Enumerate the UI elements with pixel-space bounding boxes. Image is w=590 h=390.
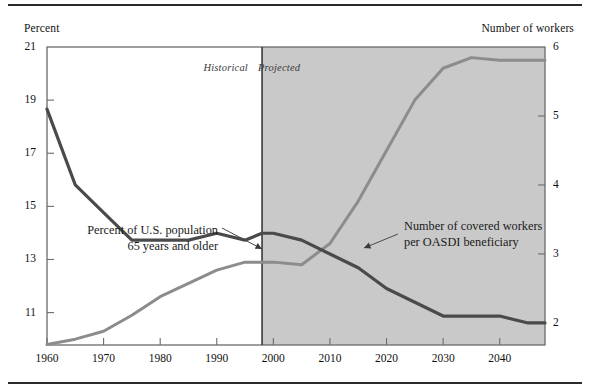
x-tick-1990: 1990 <box>195 353 239 365</box>
projected-band <box>262 47 545 345</box>
x-tick-1970: 1970 <box>82 353 126 365</box>
right-tick-3: 3 <box>553 248 575 260</box>
x-tick-2000: 2000 <box>251 353 295 365</box>
workers-annotation-line1: Number of covered workers <box>404 219 542 233</box>
x-tick-2020: 2020 <box>365 353 409 365</box>
workers-series-annotation: Number of covered workers per OASDI bene… <box>404 218 584 250</box>
right-tick-4: 4 <box>553 179 575 191</box>
left-tick-19: 19 <box>14 94 36 106</box>
historical-band-label: Historical <box>203 62 248 73</box>
plot-canvas <box>0 0 590 390</box>
left-tick-15: 15 <box>14 200 36 212</box>
left-tick-11: 11 <box>14 307 36 319</box>
population-series-annotation: Percent of U.S. population 65 years and … <box>46 222 218 254</box>
left-tick-13: 13 <box>14 253 36 265</box>
left-tick-17: 17 <box>14 147 36 159</box>
right-tick-2: 2 <box>553 317 575 329</box>
population-annotation-line2: 65 years and older <box>128 239 219 253</box>
x-tick-2040: 2040 <box>478 353 522 365</box>
x-tick-1980: 1980 <box>138 353 182 365</box>
population-leader <box>222 228 262 249</box>
population-annotation-line1: Percent of U.S. population <box>87 223 218 237</box>
x-tick-2030: 2030 <box>421 353 465 365</box>
projected-region <box>262 47 545 345</box>
projected-band-label: Projected <box>258 62 300 73</box>
chart-figure: Percent Number of workers Historical Pro… <box>0 0 590 390</box>
x-tick-1960: 1960 <box>25 353 69 365</box>
left-tick-21: 21 <box>14 41 36 53</box>
x-tick-2010: 2010 <box>308 353 352 365</box>
workers-annotation-line2: per OASDI beneficiary <box>404 235 519 249</box>
right-tick-6: 6 <box>553 41 575 53</box>
right-tick-5: 5 <box>553 110 575 122</box>
